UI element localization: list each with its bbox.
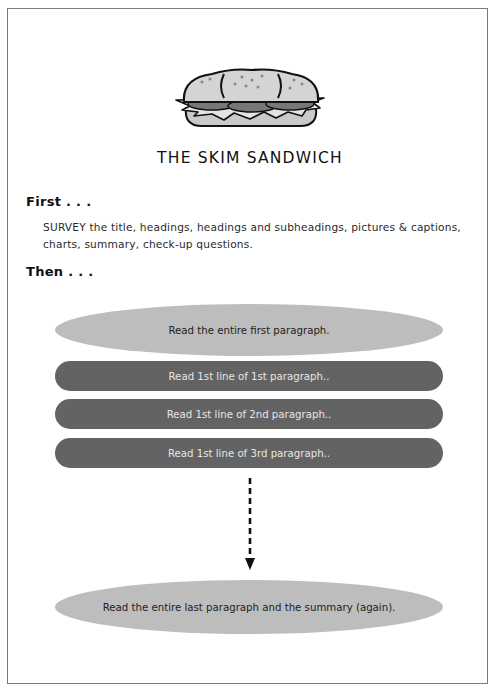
dashed-arrow-down-icon	[243, 476, 257, 572]
then-heading: Then . . .	[26, 264, 94, 279]
filling-step-3: Read 1st line of 3rd paragraph..	[55, 438, 443, 468]
filling-label: Read 1st line of 1st paragraph..	[169, 371, 330, 382]
sandwich-icon	[172, 68, 330, 130]
page-title: THE SKIM SANDWICH	[0, 149, 500, 167]
filling-label: Read 1st line of 2nd paragraph..	[167, 409, 332, 420]
first-heading: First . . .	[26, 194, 91, 209]
top-bun-label: Read the entire first paragraph.	[168, 325, 329, 336]
bottom-bun-step: Read the entire last paragraph and the s…	[55, 580, 443, 634]
filling-step-1: Read 1st line of 1st paragraph..	[55, 361, 443, 391]
filling-label: Read 1st line of 3rd paragraph..	[168, 448, 330, 459]
survey-instructions: SURVEY the title, headings, headings and…	[43, 219, 468, 253]
bottom-bun-label: Read the entire last paragraph and the s…	[103, 602, 396, 613]
top-bun-step: Read the entire first paragraph.	[55, 304, 443, 356]
filling-step-2: Read 1st line of 2nd paragraph..	[55, 399, 443, 429]
